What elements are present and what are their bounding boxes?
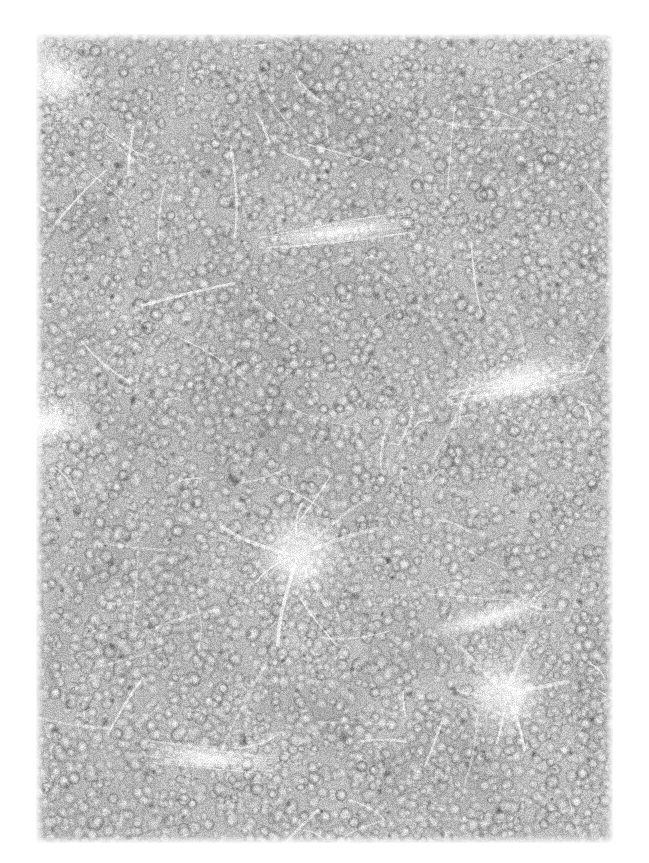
micrograph-page	[0, 0, 649, 863]
micrograph-canvas	[36, 34, 613, 843]
micrograph-image	[36, 34, 613, 843]
